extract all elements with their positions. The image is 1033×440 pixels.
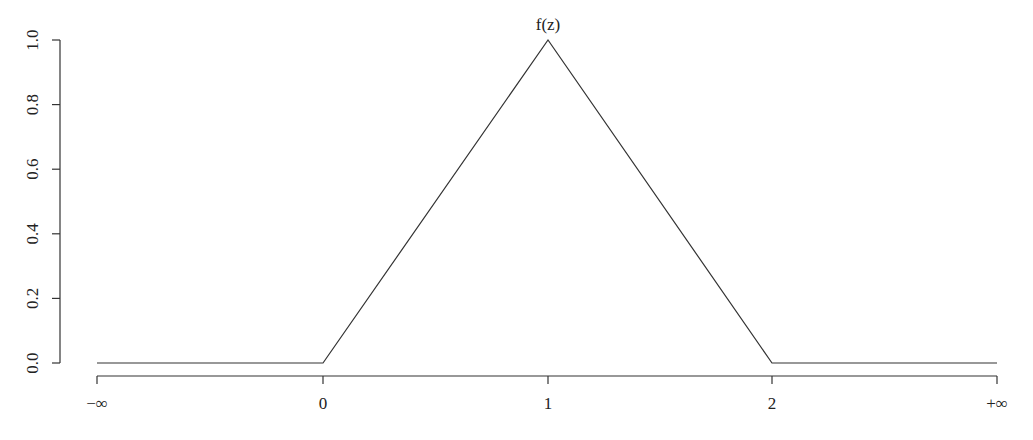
x-tick-label: +∞ (986, 394, 1008, 413)
y-tick-label: 0.4 (23, 223, 42, 245)
y-tick-label: 0.0 (23, 352, 42, 373)
y-tick-label: 0.8 (23, 94, 42, 115)
x-tick-label: 0 (319, 394, 328, 413)
y-tick-label: 1.0 (23, 29, 42, 50)
membership-function-line (97, 40, 997, 363)
chart-area: 0.00.20.40.60.81.0−∞012+∞f(z) (0, 0, 1033, 440)
y-tick-label: 0.6 (23, 159, 42, 180)
chart-title: f(z) (536, 15, 561, 34)
y-tick-label: 0.2 (23, 288, 42, 309)
x-tick-label: 2 (768, 394, 777, 413)
x-tick-label: −∞ (86, 394, 108, 413)
x-tick-label: 1 (544, 394, 553, 413)
